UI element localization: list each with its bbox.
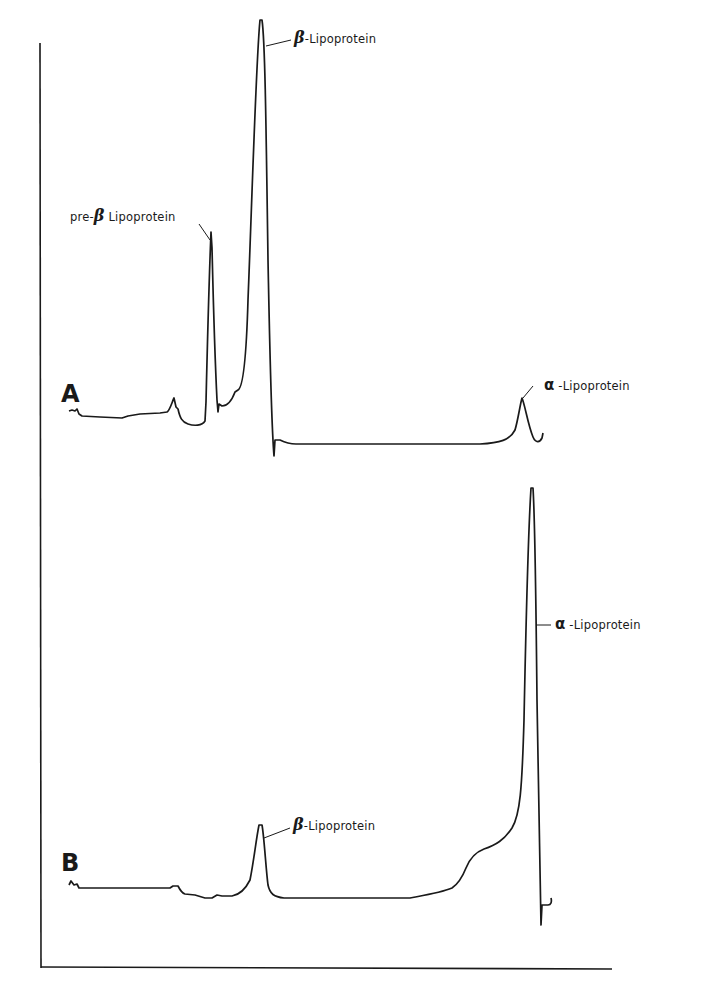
label-pre-beta-lipoprotein-a: pre-β Lipoprotein bbox=[70, 206, 176, 225]
y-axis bbox=[40, 43, 41, 968]
trace-a bbox=[69, 20, 543, 456]
label-beta-lipoprotein-b: β-Lipoprotein bbox=[293, 815, 375, 834]
label-text: -Lipoprotein bbox=[566, 618, 641, 632]
label-text: -Lipoprotein bbox=[555, 379, 630, 393]
leader-beta-b bbox=[264, 828, 290, 838]
label-alpha-lipoprotein-a: α -Lipoprotein bbox=[544, 376, 630, 394]
trace-b bbox=[69, 488, 551, 925]
leader-beta-a bbox=[266, 40, 291, 46]
label-alpha-lipoprotein-b: α -Lipoprotein bbox=[555, 615, 641, 633]
leader-prebeta-a bbox=[199, 224, 210, 240]
panel-label-b: B bbox=[61, 849, 79, 877]
panel-label-a: A bbox=[61, 380, 80, 408]
label-text: Lipoprotein bbox=[105, 210, 176, 224]
alpha-symbol: α bbox=[555, 615, 566, 633]
beta-symbol: β bbox=[294, 28, 305, 47]
label-text: -Lipoprotein bbox=[304, 819, 375, 833]
label-beta-lipoprotein-a: β-Lipoprotein bbox=[294, 28, 376, 47]
beta-symbol: β bbox=[293, 815, 304, 834]
beta-symbol: β bbox=[94, 206, 105, 225]
label-prefix: pre- bbox=[70, 210, 94, 224]
alpha-symbol: α bbox=[544, 376, 555, 394]
leader-alpha-a bbox=[523, 386, 533, 398]
scan-plot bbox=[0, 0, 705, 1005]
electrophoresis-figure: A B β-Lipoprotein pre-β Lipoprotein α -L… bbox=[0, 0, 705, 1005]
label-text: -Lipoprotein bbox=[305, 32, 376, 46]
x-axis bbox=[41, 967, 612, 969]
